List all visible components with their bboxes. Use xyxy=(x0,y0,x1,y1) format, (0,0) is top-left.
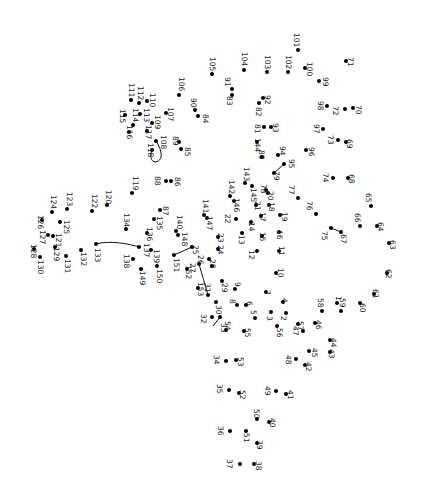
dot-122[interactable] xyxy=(90,209,94,213)
dot-label: 32 xyxy=(199,314,208,324)
dot-30[interactable] xyxy=(214,300,218,304)
drawn-line xyxy=(96,242,139,247)
dot-label: 152 xyxy=(184,265,193,279)
dot-label: 153 xyxy=(196,282,205,296)
dot-76[interactable] xyxy=(314,212,318,216)
dot-label: 82 xyxy=(254,107,263,117)
dot-137[interactable] xyxy=(137,245,141,249)
dot-22[interactable] xyxy=(234,217,238,221)
dot-73[interactable] xyxy=(336,138,340,142)
dot-label: 45 xyxy=(310,348,319,358)
dot-58[interactable] xyxy=(320,309,324,313)
dot-134[interactable] xyxy=(124,227,128,231)
dot-131[interactable] xyxy=(64,254,68,258)
dot-97[interactable] xyxy=(321,127,325,131)
dot-label: 10 xyxy=(276,268,285,278)
dot-label: 66 xyxy=(353,213,362,223)
dot-label: 69 xyxy=(345,139,354,149)
dot-72[interactable] xyxy=(343,107,347,111)
dot-90[interactable] xyxy=(193,108,197,112)
dot-49[interactable] xyxy=(274,389,278,393)
dot-34[interactable] xyxy=(224,359,228,363)
dot-54[interactable] xyxy=(218,315,222,319)
dot-74[interactable] xyxy=(331,176,335,180)
dot-151[interactable] xyxy=(172,253,176,257)
dot-95[interactable] xyxy=(282,162,286,166)
dot-label: 67 xyxy=(339,234,348,244)
dot-label: 100 xyxy=(305,62,314,76)
dot-label: 145 xyxy=(249,188,258,202)
dot-label: 120 xyxy=(104,190,113,204)
dot-84[interactable] xyxy=(196,114,200,118)
dot-label: 98 xyxy=(316,101,325,111)
dot-label: 125 xyxy=(62,220,71,234)
dot-88[interactable] xyxy=(164,179,168,183)
dot-36[interactable] xyxy=(228,429,232,433)
dot-label: 106 xyxy=(177,77,186,91)
dot-9[interactable] xyxy=(233,287,237,291)
dot-77[interactable] xyxy=(296,196,300,200)
dot-130[interactable] xyxy=(38,255,42,259)
dot-label: 25 xyxy=(191,245,200,255)
dot-label: 110 xyxy=(148,93,157,107)
dot-143[interactable] xyxy=(243,181,247,185)
dot-35[interactable] xyxy=(227,388,231,392)
dot-label: 18 xyxy=(267,202,276,212)
dot-label: 86 xyxy=(173,177,182,187)
dot-label: 9 xyxy=(233,282,242,287)
dot-label: 87 xyxy=(161,206,170,216)
dot-91[interactable] xyxy=(230,87,234,91)
dot-119[interactable] xyxy=(130,191,134,195)
dot-label: 57 xyxy=(296,321,305,331)
dot-label: 126 xyxy=(36,215,45,229)
dot-label: 17 xyxy=(258,212,267,222)
dot-label: 92 xyxy=(263,95,272,105)
dot-label: 35 xyxy=(215,384,224,394)
dot-3[interactable] xyxy=(269,310,273,314)
dot-label: 140 xyxy=(175,215,184,229)
dot-101[interactable] xyxy=(296,48,300,52)
dot-label: 36 xyxy=(216,426,225,436)
dot-5[interactable] xyxy=(253,316,257,320)
dot-105[interactable] xyxy=(210,72,214,76)
dot-37[interactable] xyxy=(238,462,242,466)
dot-label: 34 xyxy=(212,355,221,365)
dot-label: 55 xyxy=(243,328,252,338)
dot-124[interactable] xyxy=(50,210,54,214)
dot-133[interactable] xyxy=(94,242,98,246)
dot-65[interactable] xyxy=(369,204,373,208)
dot-104[interactable] xyxy=(242,68,246,72)
dot-103[interactable] xyxy=(265,70,269,74)
dot-59[interactable] xyxy=(339,309,343,313)
dot-label: 118 xyxy=(146,143,155,157)
dot-27[interactable] xyxy=(197,262,201,266)
dot-111[interactable] xyxy=(129,98,133,102)
dot-label: 8 xyxy=(228,299,237,304)
dot-label: 123 xyxy=(65,192,74,206)
dot-label: 85 xyxy=(183,147,192,157)
dot-label: 89 xyxy=(171,136,180,146)
dot-label: 12 xyxy=(247,250,256,260)
dot-31[interactable] xyxy=(206,293,210,297)
dot-2[interactable] xyxy=(284,311,288,315)
dot-102[interactable] xyxy=(286,70,290,74)
dot-label: 51 xyxy=(242,433,251,443)
dot-label: 22 xyxy=(223,214,232,224)
dot-66[interactable] xyxy=(358,224,362,228)
dot-label: 81 xyxy=(253,124,262,134)
dot-98[interactable] xyxy=(325,104,329,108)
dot-75[interactable] xyxy=(329,226,333,230)
dot-123[interactable] xyxy=(65,207,69,211)
dot-112[interactable] xyxy=(137,101,141,105)
dot-label: 116 xyxy=(125,125,134,139)
dot-82[interactable] xyxy=(257,101,261,105)
dot-label: 23 xyxy=(216,233,225,243)
dot-138[interactable] xyxy=(131,257,135,261)
dot-48[interactable] xyxy=(294,357,298,361)
connect-the-dots-canvas[interactable]: 1234567891011121314151617181920212223242… xyxy=(0,0,421,487)
dot-label: 130 xyxy=(36,260,45,274)
dot-150[interactable] xyxy=(155,264,159,268)
dot-81[interactable] xyxy=(262,125,266,129)
dot-32[interactable] xyxy=(210,315,214,319)
dot-106[interactable] xyxy=(177,93,181,97)
